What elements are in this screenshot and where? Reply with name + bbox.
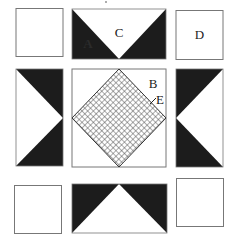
- label-a: A: [83, 36, 93, 51]
- label-e: E: [156, 92, 164, 107]
- piece-top-left: [16, 9, 63, 57]
- label-c: C: [115, 25, 124, 40]
- label-b: B: [149, 76, 158, 91]
- piece-bottom-middle: [72, 184, 167, 233]
- piece-center: B E: [72, 69, 166, 167]
- piece-top-right: D: [176, 11, 223, 60]
- piece-middle-left: [16, 69, 63, 166]
- stray-mark: [105, 1, 107, 3]
- piece-bottom-left: [15, 186, 62, 234]
- piece-bottom-right: [177, 179, 224, 227]
- piece-top-middle: A C: [72, 9, 166, 59]
- label-d: D: [195, 27, 204, 42]
- quilt-diagram: A C D B E: [0, 0, 235, 244]
- piece-middle-right: [176, 69, 223, 167]
